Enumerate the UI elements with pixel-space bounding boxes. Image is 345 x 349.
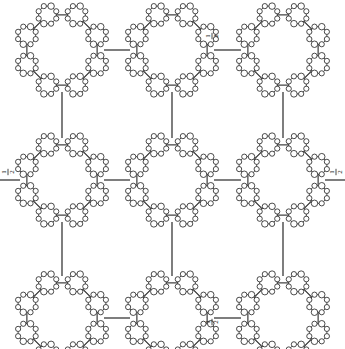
micro-node [324,196,329,201]
micro-node [83,277,88,282]
micro-node [207,53,214,60]
micro-node [126,188,131,193]
micro-node [304,9,309,14]
micro-node [70,288,77,295]
micro-node [16,326,21,331]
micro-node [126,159,131,164]
micro-node [298,133,305,140]
micro-node [193,9,198,14]
micro-node [213,297,218,302]
micro-node [175,277,180,282]
micro-node [41,134,46,139]
micro-node [299,289,304,294]
micro-node [180,272,185,277]
micro-node [286,209,291,214]
micro-node [291,150,298,157]
micro-node [311,70,318,77]
micro-node [54,146,59,151]
micro-node [193,216,198,221]
micro-node [319,71,324,76]
micro-node [146,139,151,144]
micro-node [201,24,206,29]
micro-node [65,146,70,151]
micro-node [83,284,88,289]
micro-node [158,3,165,10]
fraction-numerator: 1 [328,170,336,174]
micro-node [304,277,309,282]
micro-node [311,41,318,48]
micro-node [193,146,198,151]
micro-node [91,292,96,297]
micro-node [262,272,267,277]
micro-node [143,326,148,331]
micro-node [65,139,70,144]
micro-node [257,139,262,144]
micro-node [324,326,329,331]
micro-node [28,339,33,344]
micro-node [54,9,59,14]
micro-node [196,326,201,331]
micro-node [143,334,148,339]
micro-node [196,297,201,302]
micro-node [86,36,91,41]
micro-node [158,203,165,210]
micro-node [48,133,55,140]
micro-node [175,86,180,91]
micro-node [90,309,97,316]
micro-node [237,159,242,164]
micro-node [86,29,91,34]
micro-node [97,183,104,190]
micro-node [286,139,291,144]
micro-node [78,289,83,294]
micro-node [249,172,254,177]
micro-node [318,183,325,190]
micro-node [131,183,136,188]
micro-node [77,133,84,140]
micro-node [146,86,151,91]
micro-node [77,341,84,348]
micro-node [299,151,304,156]
micro-node [193,86,198,91]
micro-node [307,159,312,164]
micro-node [298,73,305,80]
micro-node [180,204,185,209]
fraction-numerator: 1 [204,34,212,38]
micro-node [241,309,248,316]
micro-node [151,4,156,9]
micro-node [286,79,291,84]
micro-node [158,91,163,96]
micro-node [48,221,53,226]
micro-node [291,20,298,27]
micro-node [126,196,131,201]
micro-node [248,291,255,298]
micro-node [48,73,55,80]
micro-node [254,188,259,193]
micro-node [304,146,309,151]
micro-node [311,309,318,316]
micro-node [83,79,88,84]
micro-node [65,216,70,221]
micro-node [180,74,185,79]
micro-node [324,29,329,34]
micro-node [143,166,148,171]
micro-node [158,151,163,156]
micro-node [20,70,27,77]
micro-node [91,53,96,58]
micro-node [65,86,70,91]
micro-node [196,58,201,63]
micro-node [196,334,201,339]
micro-node [249,71,254,76]
micro-node [54,79,59,84]
micro-node [54,16,59,21]
micro-node [188,221,193,226]
micro-node [318,153,325,160]
micro-node [90,41,97,48]
micro-node [275,277,280,282]
micro-node [48,271,55,278]
micro-node [103,166,108,171]
micro-node [237,166,242,171]
micro-node [33,66,38,71]
micro-node [158,133,165,140]
micro-node [213,58,218,63]
micro-node [65,209,70,214]
